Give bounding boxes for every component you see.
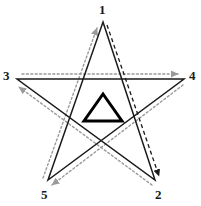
- pentagram-diagram: 1 2 3 4 5: [0, 0, 201, 206]
- vertex-label-3: 3: [3, 69, 10, 82]
- segment-1-to-2: [107, 25, 159, 176]
- inner-triangle: [84, 94, 122, 121]
- segment-2-to-3: [19, 87, 152, 185]
- vertex-label-2: 2: [155, 188, 162, 201]
- pentagram-canvas: [0, 0, 201, 206]
- star-outline: [17, 22, 184, 180]
- segment-5-to-1: [43, 28, 97, 178]
- vertex-label-4: 4: [189, 69, 196, 82]
- vertex-label-1: 1: [99, 3, 106, 16]
- vertex-label-5: 5: [41, 188, 48, 201]
- segment-4-to-5: [52, 85, 183, 185]
